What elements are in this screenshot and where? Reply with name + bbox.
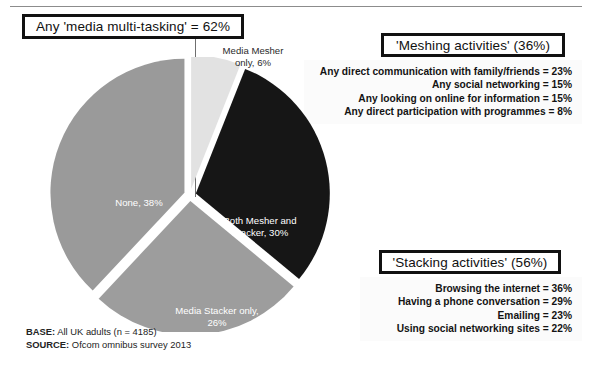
stacking-activity-line: Browsing the internet = 36%	[368, 282, 572, 295]
stacking-title-box: 'Stacking activities' (56%)	[379, 250, 561, 274]
meshing-activity-line: Any social networking = 15%	[312, 78, 572, 91]
meshing-activity-line: Any looking on online for information = …	[312, 92, 572, 105]
pie-slice-label-mesher: Media Mesheronly, 6%	[198, 45, 308, 68]
meshing-activity-line: Any direct communication with family/fri…	[312, 65, 572, 78]
pie-chart: None, 38% Both Mesher andStacker, 30% Me…	[37, 57, 337, 332]
footer-base: BASE: All UK adults (n = 4185)	[26, 325, 191, 338]
meshing-title-box: 'Meshing activities' (36%)	[381, 33, 565, 57]
footer-source-value: Ofcom omnibus survey 2013	[69, 339, 191, 350]
footer-source: SOURCE: Ofcom omnibus survey 2013	[26, 338, 191, 351]
footer-base-value: All UK adults (n = 4185)	[55, 326, 156, 337]
page-title: Any 'media multi-tasking' = 62%	[36, 19, 230, 34]
meshing-title: 'Meshing activities' (36%)	[396, 38, 550, 53]
header-rule	[10, 6, 582, 7]
pie-chart-svg	[37, 57, 337, 332]
slide-canvas: Any 'media multi-tasking' = 62% 'Meshing…	[0, 0, 589, 365]
meshing-activities-panel: Any direct communication with family/fri…	[304, 60, 582, 124]
stacking-activity-line: Using social networking sites = 22%	[368, 322, 572, 335]
main-title-box: Any 'media multi-tasking' = 62%	[22, 14, 244, 39]
footer-source-label: SOURCE:	[26, 339, 69, 350]
stacking-title: 'Stacking activities' (56%)	[393, 255, 548, 270]
stacking-activity-line: Having a phone conversation = 29%	[368, 295, 572, 308]
footer: BASE: All UK adults (n = 4185) SOURCE: O…	[26, 325, 191, 351]
meshing-activity-line: Any direct participation with programmes…	[312, 105, 572, 118]
stacking-activities-panel: Browsing the internet = 36% Having a pho…	[360, 277, 582, 341]
footer-base-label: BASE:	[26, 326, 55, 337]
stacking-activity-line: Emailing = 23%	[368, 309, 572, 322]
